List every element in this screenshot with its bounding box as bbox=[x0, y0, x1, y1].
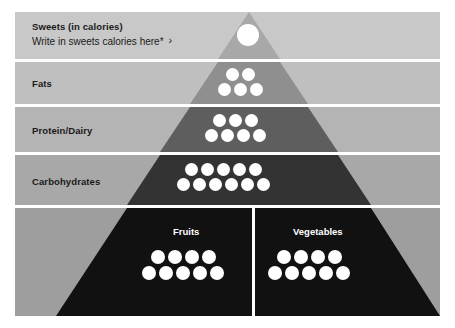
dot-marker[interactable] bbox=[241, 178, 254, 191]
layer-label-protein-dairy: Protein/Dairy bbox=[32, 125, 92, 136]
dot-row bbox=[205, 129, 266, 142]
dot-row bbox=[177, 178, 270, 191]
sweets-calories-input-hint: Write in sweets calories here* bbox=[32, 36, 164, 47]
dot-marker[interactable] bbox=[237, 129, 250, 142]
dot-marker[interactable] bbox=[201, 163, 214, 176]
dot-marker[interactable] bbox=[319, 266, 333, 280]
dot-marker[interactable] bbox=[285, 266, 299, 280]
dot-marker[interactable] bbox=[151, 250, 165, 264]
dot-group-carbohydrates bbox=[177, 163, 270, 191]
dot-marker[interactable] bbox=[205, 129, 218, 142]
dot-marker[interactable] bbox=[185, 250, 199, 264]
dot-group-fats bbox=[218, 68, 263, 96]
dot-row bbox=[142, 266, 224, 280]
dot-marker[interactable] bbox=[209, 178, 222, 191]
dot-row bbox=[218, 83, 263, 96]
dot-marker[interactable] bbox=[168, 250, 182, 264]
pyramid-layer-fats[interactable]: Fats bbox=[15, 62, 440, 104]
dot-marker[interactable] bbox=[193, 178, 206, 191]
dot-marker[interactable] bbox=[328, 250, 342, 264]
dot-row bbox=[185, 163, 262, 176]
chevron-right-icon[interactable]: › bbox=[169, 35, 173, 46]
pyramid-layer-carbohydrates[interactable]: Carbohydrates bbox=[15, 155, 440, 205]
dot-marker[interactable] bbox=[234, 83, 247, 96]
dot-marker[interactable] bbox=[185, 163, 198, 176]
dot-row bbox=[151, 250, 216, 264]
dot-marker[interactable] bbox=[311, 250, 325, 264]
dot-marker[interactable] bbox=[233, 163, 246, 176]
base-cell-divider bbox=[252, 208, 255, 316]
pyramid-layer-sweets[interactable]: Sweets (in calories) Write in sweets cal… bbox=[15, 12, 440, 59]
dot-marker[interactable] bbox=[245, 114, 258, 127]
dot-marker[interactable] bbox=[210, 266, 224, 280]
dot-marker[interactable] bbox=[217, 163, 230, 176]
dot-marker[interactable] bbox=[249, 163, 262, 176]
dot-marker[interactable] bbox=[302, 266, 316, 280]
dot-marker[interactable] bbox=[193, 266, 207, 280]
dot-group-protein-dairy bbox=[205, 114, 266, 142]
layer-label-carbohydrates: Carbohydrates bbox=[32, 176, 100, 187]
dot-marker[interactable] bbox=[177, 178, 190, 191]
dot-row bbox=[277, 250, 342, 264]
base-cell-title-fruits: Fruits bbox=[173, 226, 199, 237]
dot-marker[interactable] bbox=[253, 129, 266, 142]
dot-marker[interactable] bbox=[294, 250, 308, 264]
dot-marker[interactable] bbox=[268, 266, 282, 280]
dot-marker[interactable] bbox=[257, 178, 270, 191]
pyramid-layer-protein-dairy[interactable]: Protein/Dairy bbox=[15, 107, 440, 152]
layer-label-sweets: Sweets (in calories) bbox=[32, 21, 123, 32]
dot-row bbox=[237, 24, 259, 46]
dot-group-vegetables bbox=[268, 250, 350, 280]
dot-marker[interactable] bbox=[237, 24, 259, 46]
dot-marker[interactable] bbox=[221, 129, 234, 142]
layer-label-fats: Fats bbox=[32, 78, 52, 89]
dot-row bbox=[268, 266, 350, 280]
dot-marker[interactable] bbox=[250, 83, 263, 96]
dot-marker[interactable] bbox=[142, 266, 156, 280]
pyramid-triangle-base bbox=[15, 208, 440, 316]
dot-row bbox=[213, 114, 258, 127]
dot-marker[interactable] bbox=[242, 68, 255, 81]
layer-sublabel-sweets[interactable]: Write in sweets calories here* › bbox=[32, 36, 172, 47]
dot-row bbox=[226, 68, 255, 81]
dot-marker[interactable] bbox=[218, 83, 231, 96]
dot-group-sweets bbox=[237, 24, 259, 46]
pyramid-layer-base[interactable]: Fruits Vegetables bbox=[15, 208, 440, 316]
base-cell-title-vegetables: Vegetables bbox=[293, 226, 343, 237]
dot-marker[interactable] bbox=[225, 178, 238, 191]
dot-marker[interactable] bbox=[226, 68, 239, 81]
dot-marker[interactable] bbox=[159, 266, 173, 280]
dot-marker[interactable] bbox=[229, 114, 242, 127]
dot-marker[interactable] bbox=[336, 266, 350, 280]
dot-marker[interactable] bbox=[176, 266, 190, 280]
food-pyramid-figure: Sweets (in calories) Write in sweets cal… bbox=[0, 0, 455, 328]
dot-group-fruits bbox=[142, 250, 224, 280]
dot-marker[interactable] bbox=[202, 250, 216, 264]
dot-marker[interactable] bbox=[213, 114, 226, 127]
dot-marker[interactable] bbox=[277, 250, 291, 264]
